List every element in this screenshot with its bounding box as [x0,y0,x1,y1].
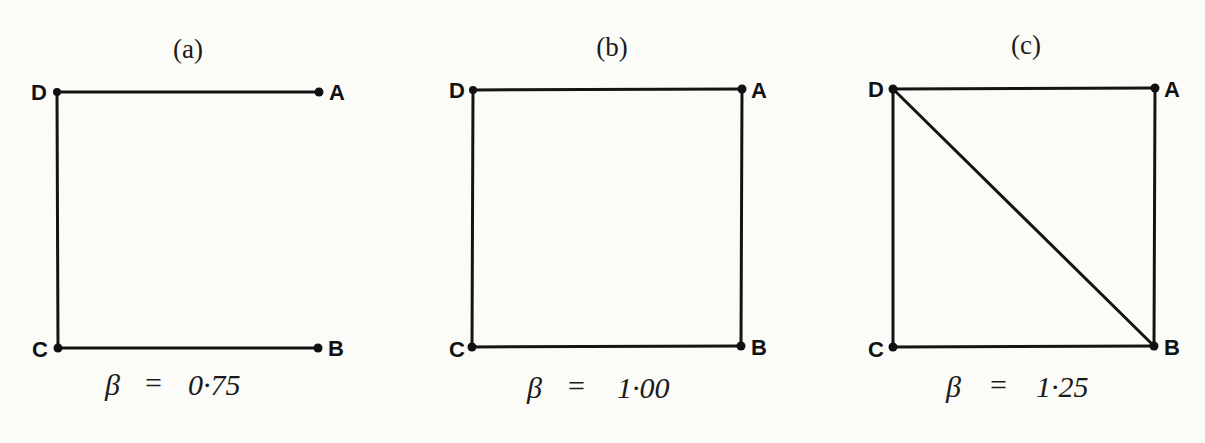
node-d [889,85,898,94]
beta-value: 0·75 [188,368,241,401]
equals-sign: = [990,368,1007,401]
node-c [54,344,63,353]
node-b [737,342,746,351]
beta-equation-c: β = 1·25 [945,368,1089,403]
node-label-d: D [868,77,884,102]
node-label-a: A [1164,77,1180,102]
equals-sign: = [145,366,162,399]
node-label-b: B [1164,335,1180,360]
panel-b-caption: (b) [596,32,627,62]
beta-value: 1·25 [1036,370,1089,403]
edge-d-b-diagonal [893,89,1154,346]
node-c [468,343,477,352]
graph-diagram-figure: (a) D A C B β = 0·75 (b) D A C B [0,0,1205,443]
node-label-d: D [31,80,47,105]
node-c [889,343,898,352]
panel-a-caption: (a) [173,34,203,64]
node-label-c: C [449,337,465,362]
beta-value: 1·00 [617,371,670,404]
edge-d-c [472,90,473,347]
beta-symbol: β [526,371,542,404]
edge-c-b [893,346,1154,347]
panel-c-caption: (c) [1011,30,1041,60]
node-label-c: C [868,337,884,362]
node-label-b: B [751,335,767,360]
beta-equation-b: β = 1·00 [526,369,670,404]
panel-a: (a) D A C B β = 0·75 [31,34,345,401]
edge-c-b [472,346,741,347]
edge-a-b [741,89,742,346]
node-a [1151,84,1160,93]
beta-equation-a: β = 0·75 [104,366,241,401]
panel-b: (b) D A C B β = 1·00 [449,32,767,404]
node-label-a: A [751,78,767,103]
node-a [738,85,747,94]
node-b [1150,342,1159,351]
beta-symbol: β [104,368,120,401]
edge-a-b [1154,88,1155,346]
equals-sign: = [568,369,585,402]
node-label-a: A [329,80,345,105]
edge-d-c [57,92,58,348]
node-label-b: B [328,336,344,361]
node-b [314,344,323,353]
edge-d-a [473,89,742,90]
beta-symbol: β [945,370,961,403]
node-d [469,86,477,94]
node-label-c: C [32,337,48,362]
node-a [315,88,324,97]
panel-c: (c) D A C B β = 1·25 [868,30,1180,403]
edge-d-a [893,88,1155,89]
node-d [53,88,61,96]
node-label-d: D [449,78,465,103]
